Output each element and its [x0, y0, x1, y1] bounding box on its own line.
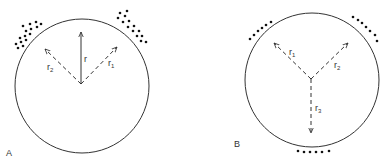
- panel-a-dots-upper-right: [117, 10, 148, 44]
- panel-b-vector-r1: [274, 43, 311, 79]
- panel-b-vector-r2: [311, 43, 348, 79]
- panel-a: r r1 r2 A: [6, 10, 149, 158]
- panel-b-circle: [245, 13, 379, 147]
- panel-a-label: A: [6, 148, 12, 158]
- panel-a-label-r2: r2: [47, 62, 54, 73]
- panel-a-label-r: r: [84, 54, 87, 64]
- panel-b-label-r1: r1: [289, 47, 296, 58]
- panel-b-label: B: [234, 139, 240, 149]
- panel-b-label-r3: r3: [315, 103, 322, 114]
- diagram-canvas: r r1 r2 A r1 r2 r3 B: [0, 0, 390, 162]
- panel-a-circle: [15, 19, 149, 153]
- panel-a-label-r1: r1: [108, 58, 115, 69]
- panel-b-dots-bottom: [297, 150, 331, 154]
- panel-b: r1 r2 r3 B: [234, 13, 379, 153]
- panel-b-label-r2: r2: [334, 60, 341, 71]
